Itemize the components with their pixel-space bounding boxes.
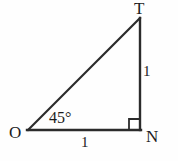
right-angle-marker bbox=[129, 119, 140, 130]
vertex-label-t: T bbox=[134, 0, 144, 17]
hypotenuse-line bbox=[28, 18, 140, 130]
angle-label-45: 45° bbox=[49, 110, 71, 126]
side-length-label-right: 1 bbox=[143, 64, 151, 79]
geometry-figure: T O N 1 1 45° bbox=[0, 0, 178, 161]
vertex-label-o: O bbox=[9, 124, 21, 141]
side-length-label-bottom: 1 bbox=[81, 135, 89, 150]
vertex-label-n: N bbox=[146, 128, 158, 145]
